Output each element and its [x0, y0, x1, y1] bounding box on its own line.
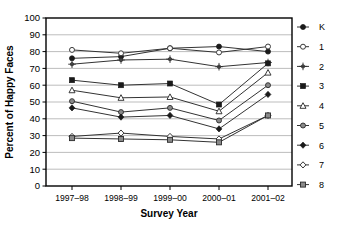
legend-item-4[interactable]: 4 [297, 101, 324, 111]
y-tick-label-60: 60 [29, 80, 40, 91]
point-1-2001–02 [266, 44, 271, 49]
legend-item-7[interactable]: 7 [297, 160, 324, 170]
x-axis: 1997–981998–991999–002000–012001–02 [55, 186, 285, 203]
legend-marker-7 [300, 162, 306, 168]
y-tick-label-70: 70 [29, 63, 40, 74]
y-tick-label-30: 30 [29, 130, 40, 141]
point-3-1999–00 [168, 81, 173, 86]
legend-marker-2 [299, 63, 307, 71]
y-tick-label-80: 80 [29, 46, 40, 57]
point-8-1999–00 [168, 137, 173, 142]
point-1-1997–98 [70, 47, 75, 52]
legend-item-8[interactable]: 8 [297, 180, 324, 190]
chart-container: 01020304050607080901001997–981998–991999… [0, 0, 353, 238]
legend-label-4: 4 [319, 101, 324, 111]
y-tick-label-0: 0 [35, 180, 40, 191]
x-axis-title: Survey Year [140, 208, 197, 219]
legend-item-5[interactable]: 5 [297, 121, 324, 131]
legend-label-6: 6 [319, 141, 324, 151]
legend-label-K: K [319, 22, 325, 32]
y-axis-title: Percent of Happy Faces [4, 45, 15, 159]
point-1-2000–01 [217, 50, 222, 55]
x-tick-label-1: 1998–99 [104, 193, 138, 203]
point-8-1998–99 [119, 136, 124, 141]
legend-item-2[interactable]: 2 [297, 62, 324, 72]
point-5-2000–01 [217, 118, 222, 123]
point-1-1998–99 [119, 51, 124, 56]
point-5-2001–02 [266, 83, 271, 88]
point-3-2001–02 [266, 61, 271, 66]
y-axis: 0102030405060708090100 [24, 12, 46, 191]
point-5-1999–00 [168, 105, 173, 110]
point-3-2000–01 [217, 102, 222, 107]
happy-faces-line-chart: 01020304050607080901001997–981998–991999… [0, 0, 353, 238]
point-K-2001–02 [266, 49, 271, 54]
point-8-1997–98 [70, 136, 75, 141]
legend-label-2: 2 [319, 62, 324, 72]
legend-item-1[interactable]: 1 [297, 42, 324, 52]
y-tick-label-50: 50 [29, 96, 40, 107]
legend: K12345678 [297, 22, 325, 190]
legend-marker-8 [301, 182, 306, 187]
legend-label-7: 7 [319, 160, 324, 170]
legend-label-1: 1 [319, 42, 324, 52]
legend-label-8: 8 [319, 180, 324, 190]
point-5-1997–98 [70, 99, 75, 104]
legend-marker-K [301, 25, 306, 30]
legend-item-3[interactable]: 3 [297, 81, 324, 91]
point-1-1999–00 [168, 46, 173, 51]
x-tick-label-3: 2000–01 [202, 193, 236, 203]
y-tick-label-10: 10 [29, 164, 40, 175]
x-tick-label-2: 1999–00 [153, 193, 187, 203]
x-tick-label-0: 1997–98 [55, 193, 89, 203]
y-tick-label-20: 20 [29, 147, 40, 158]
y-tick-label-40: 40 [29, 113, 40, 124]
legend-label-5: 5 [319, 121, 324, 131]
x-tick-label-4: 2001–02 [251, 193, 285, 203]
point-K-2000–01 [217, 44, 222, 49]
point-3-1998–99 [119, 83, 124, 88]
legend-item-K[interactable]: K [297, 22, 325, 32]
legend-marker-1 [301, 44, 306, 49]
point-3-1997–98 [70, 78, 75, 83]
y-tick-label-90: 90 [29, 29, 40, 40]
y-tick-label-100: 100 [24, 12, 40, 23]
legend-marker-6 [300, 142, 306, 148]
point-8-2000–01 [217, 140, 222, 145]
point-8-2001–02 [266, 113, 271, 118]
legend-label-3: 3 [319, 81, 324, 91]
point-K-1997–98 [70, 56, 75, 61]
legend-marker-5 [301, 123, 306, 128]
legend-item-6[interactable]: 6 [297, 141, 324, 151]
legend-marker-3 [301, 84, 306, 89]
